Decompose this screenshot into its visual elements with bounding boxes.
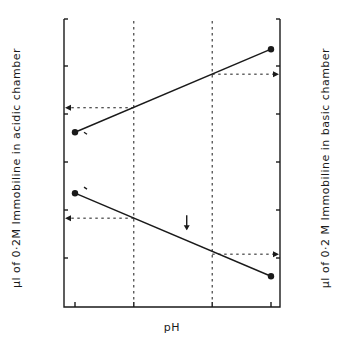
labels-group	[84, 132, 190, 230]
guide-lines	[65, 21, 279, 303]
data-point	[268, 46, 274, 52]
series-line-0	[75, 49, 271, 132]
data-point	[72, 129, 78, 135]
arrowhead-right	[273, 71, 279, 77]
y-axis-title-right: µl of 0·2 M Immobiline in basic chamber	[319, 48, 332, 288]
arrowhead-right	[273, 251, 279, 257]
annotation-arrowhead	[184, 225, 190, 230]
data-point	[72, 190, 78, 196]
arrowhead-left	[65, 105, 71, 111]
y-axis-title-left: µl of 0·2M Immobiline in acidic chamber	[10, 48, 23, 288]
chart: pH µl of 0·2M Immobiline in acidic chamb…	[0, 0, 341, 348]
x-axis-title: pH	[164, 321, 180, 334]
axis-frame	[64, 19, 280, 307]
series-group	[72, 46, 274, 279]
series-label-leader	[84, 187, 87, 189]
series-line-1	[75, 193, 271, 276]
axes	[64, 19, 280, 307]
arrowhead-left	[65, 215, 71, 221]
series-label-leader	[84, 132, 87, 134]
data-point	[268, 273, 274, 279]
